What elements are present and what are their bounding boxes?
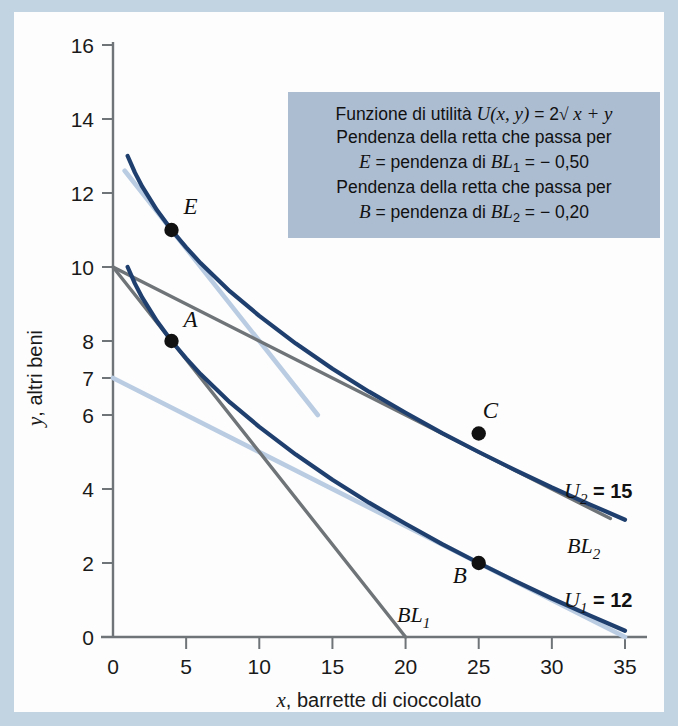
annotation-line1-eq: = 2 — [529, 104, 559, 124]
series-U1 — [128, 267, 625, 631]
x-axis-tick-label: 15 — [321, 655, 344, 678]
series-label-BL1-sub: 1 — [423, 615, 431, 631]
annotation-line5-val: = − 0,20 — [520, 202, 589, 222]
series-label-BL2-sub: 2 — [593, 546, 601, 562]
data-point-A — [164, 334, 178, 348]
annotation-line3-sub: 1 — [513, 161, 520, 175]
data-point-E — [164, 223, 178, 237]
annotation-line-3: E = pendenza di BL1 = − 0,50 — [298, 149, 650, 176]
y-axis-tick-label: 4 — [82, 478, 94, 501]
figure-root: 0246781012141605101520253035x, barrette … — [0, 0, 678, 726]
y-axis-tick-label: 12 — [71, 182, 94, 205]
x-axis-tick-label: 10 — [248, 655, 271, 678]
x-axis-tick-label: 5 — [180, 655, 192, 678]
x-axis-tick-label: 30 — [540, 655, 563, 678]
x-axis-tick-label: 25 — [467, 655, 490, 678]
x-axis-tick-label: 0 — [107, 655, 119, 678]
y-axis-tick-label: 7 — [82, 367, 94, 390]
series-label-U1-sub: 1 — [580, 600, 588, 616]
series-label-BL1-text: BL — [397, 602, 423, 627]
annotation-line3-e: E — [359, 151, 371, 172]
utility-annotation-box: Funzione di utilità U(x, y) = 2√ x + y P… — [288, 92, 660, 238]
annotation-line3-bl: BL — [491, 151, 513, 172]
series-label-U2-value: = 15 — [587, 480, 632, 502]
x-axis-tick-label: 35 — [613, 655, 636, 678]
data-point-label-E: E — [183, 194, 198, 219]
annotation-line-1: Funzione di utilità U(x, y) = 2√ x + y — [298, 101, 650, 126]
data-point-label-C: C — [483, 398, 499, 423]
annotation-line-5: B = pendenza di BL2 = − 0,20 — [298, 199, 650, 226]
data-point-label-A: A — [182, 307, 199, 332]
data-point-label-B: B — [453, 563, 467, 588]
y-axis-tick-label: 16 — [71, 34, 94, 57]
annotation-line5-bl: BL — [491, 201, 513, 222]
data-point-B — [472, 556, 486, 570]
annotation-line5-b: B — [359, 201, 371, 222]
y-axis-tick-label: 6 — [82, 404, 94, 427]
y-axis-title-text: , altri beni — [24, 330, 46, 417]
sqrt-icon: √ — [559, 104, 569, 124]
annotation-line1-tail: x + y — [569, 103, 613, 124]
y-axis-tick-label: 10 — [71, 256, 94, 279]
annotation-line1-pre: Funzione di utilità — [335, 104, 476, 124]
annotation-line1-args: (x, y) — [490, 103, 529, 124]
annotation-line5-mid: = pendenza di — [371, 202, 491, 222]
annotation-line-2: Pendenza della retta che passa per — [298, 126, 650, 149]
x-axis-tick-label: 20 — [394, 655, 417, 678]
annotation-line5-sub: 2 — [513, 211, 520, 225]
y-axis-tick-label: 2 — [82, 552, 94, 575]
y-axis-title: y, altri beni — [23, 330, 47, 428]
y-axis-tick-label: 0 — [82, 626, 94, 649]
series-label-BL2-text: BL — [567, 533, 593, 558]
series-label-U2: U2 = 15 — [564, 478, 632, 507]
series-label-BL1: BL1 — [397, 602, 430, 631]
x-axis-title-text: , barrette di cioccolato — [286, 689, 482, 711]
series-label-U1-value: = 12 — [587, 589, 632, 611]
annotation-line-4: Pendenza della retta che passa per — [298, 176, 650, 199]
annotation-line3-mid: = pendenza di — [371, 152, 491, 172]
annotation-line1-fn: U — [477, 103, 491, 124]
y-axis-title-italic: y — [23, 416, 47, 428]
x-axis-title: x, barrette di cioccolato — [276, 688, 482, 712]
y-axis-tick-label: 8 — [82, 330, 94, 353]
annotation-line3-val: = − 0,50 — [520, 152, 589, 172]
series-label-BL2: BL2 — [567, 533, 601, 562]
data-point-C — [472, 426, 486, 440]
series-label-U1: U1 = 12 — [564, 587, 632, 616]
y-axis-tick-label: 14 — [71, 108, 95, 131]
